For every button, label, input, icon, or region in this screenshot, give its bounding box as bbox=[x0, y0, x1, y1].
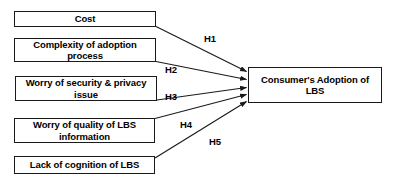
edge-label-h4: H4 bbox=[180, 120, 192, 130]
edge-label-h1: H1 bbox=[204, 34, 216, 44]
edge-label-h3: H3 bbox=[165, 92, 177, 102]
node-cost[interactable]: Cost bbox=[14, 11, 156, 27]
node-security-label: Worry of security & privacy issue bbox=[16, 77, 156, 100]
node-quality[interactable]: Worry of quality of LBS information bbox=[14, 118, 155, 143]
node-cognition-label: Lack of cognition of LBS bbox=[27, 159, 143, 171]
node-security[interactable]: Worry of security & privacy issue bbox=[15, 76, 157, 101]
edge-label-h2: H2 bbox=[165, 65, 177, 75]
node-complexity[interactable]: Complexity of adoption process bbox=[14, 38, 156, 62]
node-complexity-label: Complexity of adoption process bbox=[15, 39, 155, 62]
edge-label-h5: H5 bbox=[209, 137, 221, 147]
node-adoption[interactable]: Consumer's Adoption of LBS bbox=[248, 67, 382, 103]
node-cognition[interactable]: Lack of cognition of LBS bbox=[14, 156, 155, 174]
node-adoption-label: Consumer's Adoption of LBS bbox=[249, 74, 381, 97]
node-quality-label: Worry of quality of LBS information bbox=[15, 119, 154, 142]
arrow-h5 bbox=[155, 102, 247, 159]
node-cost-label: Cost bbox=[72, 13, 99, 25]
research-model-diagram: Cost Complexity of adoption process Worr… bbox=[0, 0, 396, 188]
